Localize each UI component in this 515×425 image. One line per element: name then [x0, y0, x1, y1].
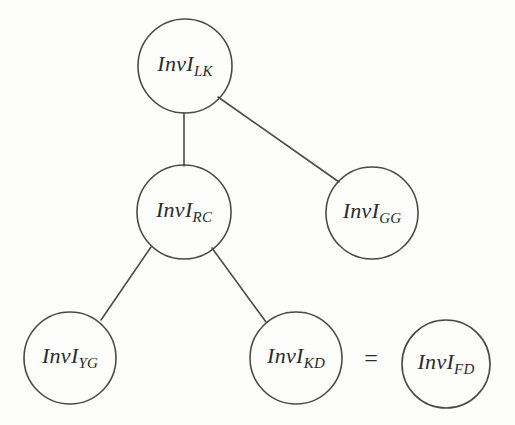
node-circle-yg[interactable]	[24, 312, 116, 404]
node-circle-fd[interactable]	[402, 320, 490, 408]
graph-svg	[0, 0, 515, 425]
node-circle-lk[interactable]	[138, 19, 232, 113]
edge-rc-yg	[101, 247, 151, 320]
diagram-canvas: InvILKInvIRCInvIGGInvIYGInvIKDInvIFD =	[0, 0, 515, 425]
node-circle-gg[interactable]	[326, 167, 418, 259]
equals-sign: =	[364, 346, 378, 370]
edge-rc-kd	[212, 248, 266, 322]
node-circle-kd[interactable]	[250, 312, 342, 404]
node-circle-rc[interactable]	[137, 165, 231, 259]
edge-lk-gg	[218, 97, 339, 182]
node-layer	[24, 19, 490, 408]
